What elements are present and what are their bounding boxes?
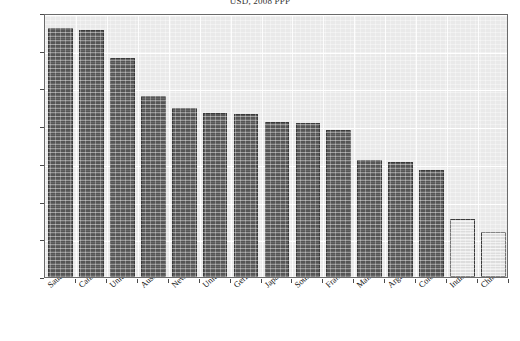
bar[interactable] bbox=[326, 130, 351, 277]
gridline-vertical bbox=[416, 15, 417, 277]
gridline-vertical bbox=[231, 15, 232, 277]
bar[interactable] bbox=[265, 122, 290, 277]
plot-area bbox=[44, 14, 508, 278]
x-axis-tick-mark bbox=[230, 279, 231, 283]
x-axis-tick-mark bbox=[261, 279, 262, 283]
bar[interactable] bbox=[110, 58, 135, 277]
gridline-vertical bbox=[138, 15, 139, 277]
plot-inner bbox=[45, 15, 507, 277]
gridline-vertical bbox=[262, 15, 263, 277]
x-axis-tick-mark bbox=[508, 279, 509, 283]
gridline-vertical bbox=[354, 15, 355, 277]
gridline-vertical bbox=[385, 15, 386, 277]
bar[interactable] bbox=[48, 28, 73, 277]
gridline-vertical bbox=[107, 15, 108, 277]
bar[interactable] bbox=[481, 232, 506, 277]
y-axis-tick-mark bbox=[40, 278, 44, 279]
gridline-vertical bbox=[292, 15, 293, 277]
gridline-vertical bbox=[323, 15, 324, 277]
gridline-vertical bbox=[478, 15, 479, 277]
bar[interactable] bbox=[234, 114, 259, 277]
bar[interactable] bbox=[388, 162, 413, 277]
bar[interactable] bbox=[203, 113, 228, 277]
bar[interactable] bbox=[419, 170, 444, 277]
gridline-vertical bbox=[76, 15, 77, 277]
bar[interactable] bbox=[357, 160, 382, 277]
bar[interactable] bbox=[450, 219, 475, 277]
gridline-vertical bbox=[447, 15, 448, 277]
bar[interactable] bbox=[296, 123, 321, 277]
bar[interactable] bbox=[172, 108, 197, 277]
gridline-horizontal bbox=[45, 53, 507, 54]
gridline-horizontal bbox=[45, 15, 507, 16]
bar[interactable] bbox=[141, 96, 166, 277]
gridline-vertical bbox=[200, 15, 201, 277]
gridline-vertical bbox=[169, 15, 170, 277]
chart-title: USD, 2008 PPP bbox=[0, 0, 520, 6]
bar[interactable] bbox=[79, 30, 104, 277]
